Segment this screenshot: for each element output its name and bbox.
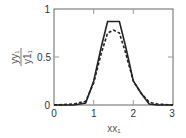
chart: 0 1 2 3 0 0.5 1 xx₁ yy₁ y1₁ <box>0 0 186 138</box>
x-tick-label-1: 1 <box>91 108 97 119</box>
x-axis-label: xx₁ <box>107 123 121 134</box>
y-tick-label-0: 0 <box>44 100 50 111</box>
y-axis-label: yy₁ y1₁ <box>9 48 33 66</box>
y-axis-label-denominator: y1₁ <box>22 49 33 64</box>
y-tick-label-0-5: 0.5 <box>37 52 51 63</box>
dashed-curve <box>54 30 173 105</box>
axes-box <box>54 9 173 105</box>
x-tick-label-0: 0 <box>51 108 57 119</box>
x-tick-label-2: 2 <box>131 108 137 119</box>
y-axis-label-numerator: yy₁ <box>9 50 20 64</box>
x-tick-label-3: 3 <box>169 108 175 119</box>
solid-curve <box>54 22 173 106</box>
y-tick-label-1: 1 <box>44 4 50 15</box>
